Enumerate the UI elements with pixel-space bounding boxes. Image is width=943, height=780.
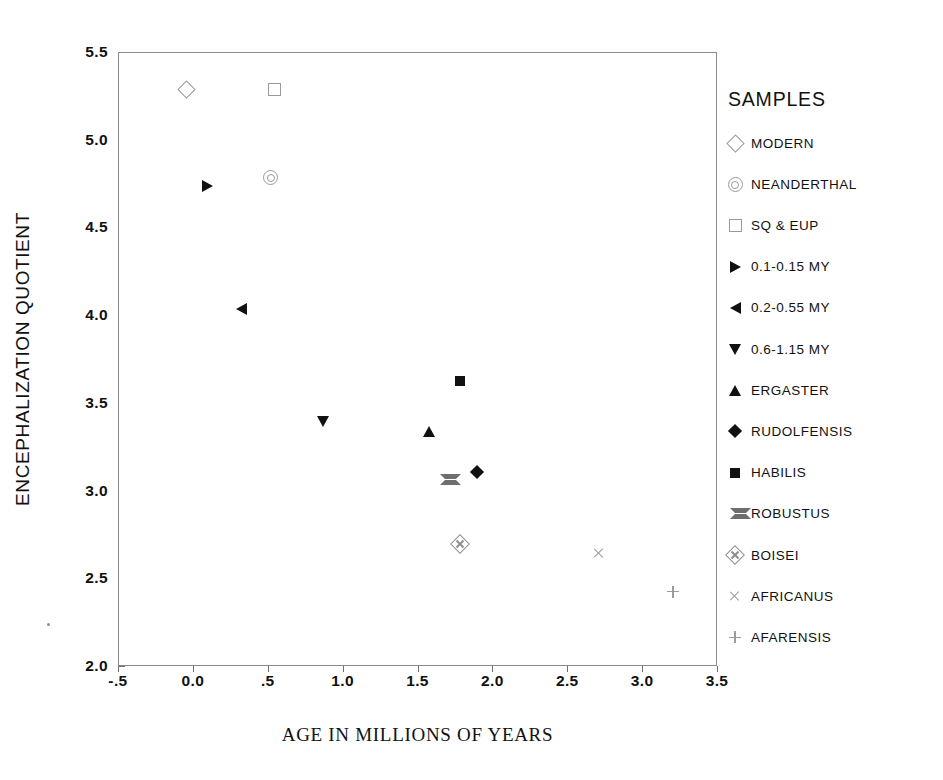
africanus-marker-icon bbox=[592, 547, 604, 559]
legend-marker-slot bbox=[723, 339, 747, 359]
legend-marker-slot bbox=[723, 586, 747, 606]
legend-marker-slot bbox=[723, 545, 747, 565]
legend-item-robustus[interactable]: ROBUSTUS bbox=[723, 503, 830, 525]
legend-item-label: ERGASTER bbox=[751, 383, 829, 398]
y-axis-tick-label: 4.0 bbox=[0, 306, 108, 324]
y-axis-tick-mark bbox=[118, 666, 125, 667]
y-axis-tick-label: 3.5 bbox=[0, 394, 108, 412]
0-6-1-15-my-marker-icon bbox=[729, 344, 741, 355]
legend-item-label: AFARENSIS bbox=[751, 630, 831, 645]
y-axis-tick-label: 5.0 bbox=[0, 131, 108, 149]
legend-marker-slot bbox=[723, 257, 747, 277]
x-axis-tick-mark bbox=[193, 666, 194, 672]
y-axis-tick-label: 3.0 bbox=[0, 482, 108, 500]
legend-item-neanderthal[interactable]: NEANDERTHAL bbox=[723, 173, 857, 195]
x-axis-tick-label: 0.0 bbox=[182, 672, 205, 690]
x-axis-tick-mark bbox=[343, 666, 344, 672]
legend-item-label: AFRICANUS bbox=[751, 589, 834, 604]
africanus-marker-icon bbox=[729, 590, 741, 602]
legend-item-0-6-1-15-my[interactable]: 0.6-1.15 MY bbox=[723, 338, 830, 360]
y-axis-tick-label: 2.0 bbox=[0, 657, 108, 675]
legend-item-label: MODERN bbox=[751, 136, 814, 151]
habilis-marker-icon bbox=[730, 468, 740, 478]
rudolfensis-marker-icon bbox=[728, 424, 742, 438]
legend-item-label: ROBUSTUS bbox=[751, 506, 830, 521]
ergaster-marker-icon bbox=[729, 385, 741, 396]
legend-marker-slot bbox=[723, 380, 747, 400]
legend-item-boisei[interactable]: BOISEI bbox=[723, 544, 799, 566]
legend-item-label: 0.6-1.15 MY bbox=[751, 342, 830, 357]
legend-marker-slot bbox=[723, 627, 747, 647]
x-axis-tick-mark bbox=[717, 666, 718, 672]
x-axis-tick-label: 1.0 bbox=[331, 672, 354, 690]
habilis-marker-icon bbox=[455, 376, 465, 386]
x-axis-tick-mark bbox=[642, 666, 643, 672]
legend-item-label: NEANDERTHAL bbox=[751, 177, 857, 192]
boisei-marker-icon bbox=[725, 545, 745, 565]
sq-eup-marker-icon bbox=[729, 219, 742, 232]
neanderthal-marker-icon bbox=[728, 177, 743, 192]
0-2-0-55-my-marker-icon bbox=[236, 303, 247, 315]
legend-item-label: RUDOLFENSIS bbox=[751, 424, 853, 439]
plot-area bbox=[119, 53, 716, 665]
modern-marker-icon bbox=[726, 134, 744, 152]
legend-item-africanus[interactable]: AFRICANUS bbox=[723, 585, 834, 607]
x-axis-title: AGE IN MILLIONS OF YEARS bbox=[118, 724, 717, 746]
x-axis-tick-label: 2.0 bbox=[481, 672, 504, 690]
ergaster-marker-icon bbox=[423, 426, 435, 437]
afarensis-marker-icon bbox=[667, 586, 679, 598]
modern-marker-icon bbox=[177, 81, 195, 99]
y-axis-tick-label: 5.5 bbox=[0, 43, 108, 61]
x-axis-tick-mark bbox=[118, 666, 119, 672]
legend-item-rudolfensis[interactable]: RUDOLFENSIS bbox=[723, 420, 853, 442]
legend-item-0-2-0-55-my[interactable]: 0.2-0.55 MY bbox=[723, 297, 830, 319]
chart-root: ENCEPHALIZATION QUOTIENT 2.02.53.03.54.0… bbox=[0, 0, 943, 780]
0-2-0-55-my-marker-icon bbox=[730, 302, 741, 314]
x-axis-tick-label: 2.5 bbox=[556, 672, 579, 690]
legend-item-label: HABILIS bbox=[751, 465, 806, 480]
x-axis-tick-mark bbox=[268, 666, 269, 672]
x-axis-tick-mark bbox=[492, 666, 493, 672]
robustus-marker-icon bbox=[730, 508, 741, 519]
legend-item-habilis[interactable]: HABILIS bbox=[723, 462, 806, 484]
y-axis-tick-label: 4.5 bbox=[0, 218, 108, 236]
0-1-0-15-my-marker-icon bbox=[202, 180, 213, 192]
x-axis-tick-label: 3.5 bbox=[706, 672, 729, 690]
legend-marker-slot bbox=[723, 421, 747, 441]
y-axis-tick-label: 2.5 bbox=[0, 569, 108, 587]
x-axis-tick-label: .5 bbox=[261, 672, 275, 690]
legend-marker-slot bbox=[723, 133, 747, 153]
0-1-0-15-my-marker-icon bbox=[730, 261, 741, 273]
x-axis-tick-mark bbox=[567, 666, 568, 672]
0-6-1-15-my-marker-icon bbox=[317, 416, 329, 427]
legend-marker-slot bbox=[723, 298, 747, 318]
legend-item-0-1-0-15-my[interactable]: 0.1-0.15 MY bbox=[723, 256, 830, 278]
legend-item-modern[interactable]: MODERN bbox=[723, 132, 814, 154]
robustus-marker-icon bbox=[440, 474, 451, 485]
legend-item-label: SQ & EUP bbox=[751, 218, 819, 233]
afarensis-marker-icon bbox=[729, 631, 741, 643]
neanderthal-marker-icon bbox=[263, 170, 278, 185]
boisei-marker-icon bbox=[451, 534, 471, 554]
legend-item-sq-eup[interactable]: SQ & EUP bbox=[723, 214, 819, 236]
page-speck bbox=[47, 623, 50, 626]
x-axis-tick-label: 3.0 bbox=[631, 672, 654, 690]
x-axis-tick-label: 1.5 bbox=[406, 672, 429, 690]
x-axis-tick-mark bbox=[418, 666, 419, 672]
rudolfensis-marker-icon bbox=[470, 465, 484, 479]
plot-frame bbox=[118, 52, 717, 666]
legend-item-label: 0.1-0.15 MY bbox=[751, 259, 830, 274]
legend-marker-slot bbox=[723, 215, 747, 235]
legend-marker-slot bbox=[723, 174, 747, 194]
legend-title: SAMPLES bbox=[728, 88, 826, 111]
x-axis-tick-label: -.5 bbox=[108, 672, 127, 690]
sq-eup-marker-icon bbox=[268, 83, 281, 96]
legend-item-ergaster[interactable]: ERGASTER bbox=[723, 379, 829, 401]
legend-marker-slot bbox=[723, 463, 747, 483]
legend-marker-slot bbox=[723, 504, 747, 524]
legend-item-label: BOISEI bbox=[751, 548, 799, 563]
legend-item-afarensis[interactable]: AFARENSIS bbox=[723, 626, 831, 648]
legend-item-label: 0.2-0.55 MY bbox=[751, 300, 830, 315]
